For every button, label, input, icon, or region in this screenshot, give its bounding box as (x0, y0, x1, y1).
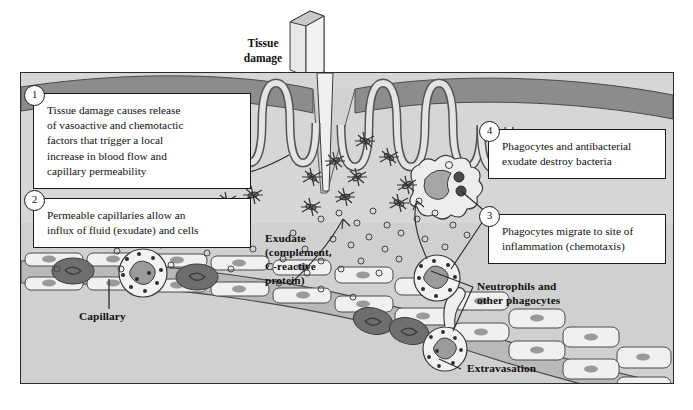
diagram-frame: Bacteria Exudate (complement, C-reactive… (20, 72, 674, 384)
callout-box-4: Phagocytes and antibacterial exudate des… (488, 129, 666, 179)
callout-number-3: 3 (479, 206, 500, 227)
callout-box-1: Tissue damage causes release of vasoacti… (33, 93, 251, 189)
extravasation-label: Extravasation (467, 361, 536, 375)
capillary-label: Capillary (79, 309, 126, 323)
callout-number-2: 2 (24, 190, 45, 211)
neutrophil-in-lumen (119, 249, 167, 297)
splinter-icon (280, 8, 340, 78)
figure-canvas: Tissue damage (0, 0, 693, 410)
epidermis-right (355, 78, 673, 119)
callout-box-2: Permeable capillaries allow an influx of… (33, 198, 251, 248)
neutrophils-label: Neutrophils and other phagocytes (477, 279, 560, 307)
callout-number-1: 1 (24, 85, 45, 106)
neutrophil-in-tissue (414, 255, 460, 301)
callout-number-4: 4 (479, 121, 500, 142)
callout-box-3: Phagocytes migrate to site of inflammati… (488, 214, 666, 264)
exudate-label: Exudate (complement, C-reactive protein) (265, 231, 332, 287)
